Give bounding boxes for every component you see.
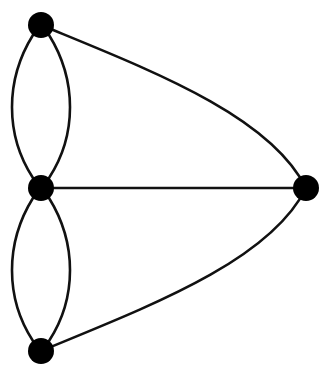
node-middle xyxy=(28,175,54,201)
node-bottom xyxy=(28,338,54,364)
node-top xyxy=(28,12,54,38)
edge-middle-bottom-right xyxy=(49,198,70,341)
edge-top-middle-left xyxy=(12,35,33,178)
graph-diagram xyxy=(0,0,329,376)
edge-bottom-right xyxy=(41,188,306,351)
graph-svg xyxy=(0,0,329,376)
node-right xyxy=(293,175,319,201)
edge-top-right xyxy=(41,25,306,188)
edge-middle-bottom-left xyxy=(12,198,33,341)
edge-top-middle-right xyxy=(49,35,70,178)
